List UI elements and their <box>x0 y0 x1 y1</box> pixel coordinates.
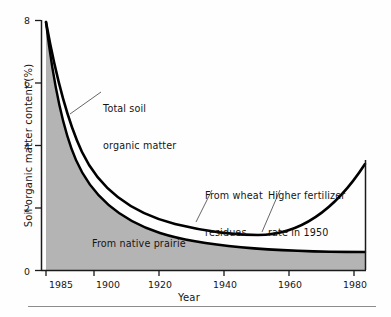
annotation-fertilizer-line1: Higher fertilizer <box>268 190 345 202</box>
y-tick-label-0: 0 <box>16 265 30 276</box>
leader-line-total <box>70 92 101 114</box>
annotation-from-wheat-residues: From wheat residues <box>205 166 263 264</box>
x-axis-title: Year <box>178 292 200 303</box>
x-tick-label-1940: 1940 <box>213 279 237 290</box>
x-tick-label-1900: 1900 <box>96 279 120 290</box>
x-tick-label-1960: 1960 <box>278 279 302 290</box>
x-tick-label-1920: 1920 <box>148 279 172 290</box>
x-tick-label-1985: 1985 <box>49 279 73 290</box>
annotation-wheat-line1: From wheat <box>205 190 263 202</box>
annotation-from-native-prairie: From native prairie <box>92 238 186 250</box>
annotation-total-line1: Total soil <box>103 103 176 115</box>
x-tick-label-1980: 1980 <box>343 279 367 290</box>
annotation-total-soil-organic-matter: Total soil organic matter <box>103 79 176 177</box>
annotation-fertilizer-line2: rate in 1950 <box>268 227 345 239</box>
footer-divider <box>28 306 376 307</box>
annotation-total-line2: organic matter <box>103 140 176 152</box>
annotation-wheat-line2: residues <box>205 227 263 239</box>
y-tick-label-8: 8 <box>16 15 30 26</box>
y-axis-title: Soil organic matter content (%) <box>23 46 34 246</box>
annotation-higher-fertilizer-rate: Higher fertilizer rate in 1950 <box>268 166 345 264</box>
figure-container: 8 6 4 2 0 1985 1900 1920 1940 1960 1980 … <box>0 0 391 317</box>
soil-organic-matter-chart <box>0 0 391 317</box>
